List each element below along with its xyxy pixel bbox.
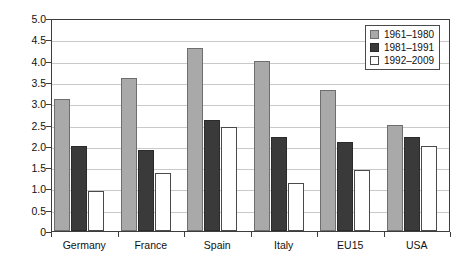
bar — [54, 99, 70, 231]
y-tick-label: 3.0 — [16, 99, 46, 109]
x-tick-mark — [450, 232, 451, 237]
y-tick-label: 0.5 — [16, 206, 46, 216]
x-category-label: USA — [384, 239, 451, 252]
bar — [254, 61, 270, 231]
x-category-label: Spain — [184, 239, 251, 252]
bar — [354, 170, 370, 231]
bar — [421, 146, 437, 231]
legend: 1961–19801981–19911992–2009 — [365, 25, 440, 70]
bar — [387, 125, 403, 232]
bar — [320, 90, 336, 231]
bar — [337, 142, 353, 231]
legend-item: 1981–1991 — [370, 42, 434, 53]
bar — [88, 191, 104, 231]
bar — [221, 127, 237, 231]
bar — [204, 120, 220, 231]
y-tick-label: 5.0 — [16, 14, 46, 24]
legend-item: 1992–2009 — [370, 55, 434, 66]
y-tick-label: 1.5 — [16, 163, 46, 173]
x-tick-mark — [184, 232, 185, 237]
y-tick-label: 2.5 — [16, 121, 46, 131]
x-tick-mark — [251, 232, 252, 237]
bar — [404, 137, 420, 231]
bar — [288, 183, 304, 231]
x-category-label: France — [118, 239, 185, 252]
legend-label: 1961–1980 — [384, 30, 434, 40]
bar — [121, 78, 137, 231]
x-tick-mark — [51, 232, 52, 237]
bar — [271, 137, 287, 231]
x-tick-mark — [118, 232, 119, 237]
bar — [71, 146, 87, 231]
x-category-label: EU15 — [317, 239, 384, 252]
y-tick-label: 3.5 — [16, 78, 46, 88]
y-tick-label: 0 — [16, 227, 46, 237]
y-tick-label: 1.0 — [16, 184, 46, 194]
bar — [138, 150, 154, 231]
gridline — [52, 105, 449, 106]
x-tick-mark — [317, 232, 318, 237]
legend-label: 1981–1991 — [384, 43, 434, 53]
gridline — [52, 84, 449, 85]
legend-swatch-icon — [370, 30, 379, 39]
y-tick-label: 4.0 — [16, 57, 46, 67]
x-category-label: Germany — [51, 239, 118, 252]
bar — [187, 48, 203, 231]
y-tick-label: 4.5 — [16, 35, 46, 45]
legend-swatch-icon — [370, 56, 379, 65]
gdp-growth-bar-chart: Growth of GDP per captia 00.51.01.52.02.… — [0, 0, 465, 267]
legend-item: 1961–1980 — [370, 29, 434, 40]
legend-label: 1992–2009 — [384, 56, 434, 66]
x-tick-mark — [384, 232, 385, 237]
bar — [155, 173, 171, 231]
y-tick-label: 2.0 — [16, 142, 46, 152]
x-category-label: Italy — [251, 239, 318, 252]
legend-swatch-icon — [370, 43, 379, 52]
